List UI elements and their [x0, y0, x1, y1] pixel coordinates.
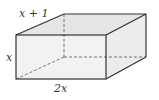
height-label: x [6, 52, 12, 63]
width-label: 2x [54, 83, 67, 94]
depth-label: x + 1 [19, 8, 48, 19]
